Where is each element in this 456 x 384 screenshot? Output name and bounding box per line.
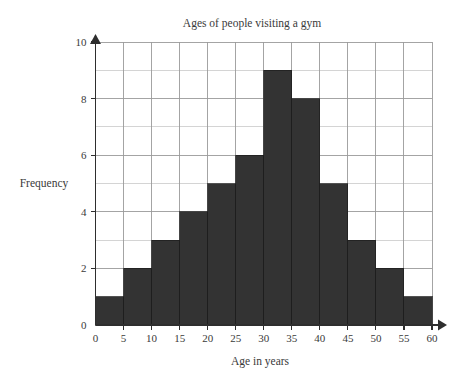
- x-tick-label-35: 35: [286, 332, 298, 344]
- x-axis-label: Age in years: [231, 355, 290, 368]
- x-tick-label-25: 25: [230, 332, 242, 344]
- y-tick-label-8: 8: [81, 93, 87, 105]
- bar-0-5: [96, 297, 124, 325]
- x-tick-label-30: 30: [258, 332, 270, 344]
- x-tick-label-40: 40: [314, 332, 326, 344]
- bar-20-25: [208, 184, 236, 326]
- x-tick-label-5: 5: [121, 332, 127, 344]
- histogram-chart: Ages of people visiting a gym 0510152025…: [0, 0, 456, 384]
- x-tick-label-55: 55: [398, 332, 410, 344]
- y-tick-label-10: 10: [76, 36, 88, 48]
- y-tick-label-2: 2: [81, 262, 87, 274]
- bar-55-60: [404, 297, 432, 325]
- bar-10-15: [152, 240, 180, 325]
- bar-30-35: [264, 70, 292, 325]
- y-tick-label-4: 4: [81, 206, 87, 218]
- bar-5-10: [124, 268, 152, 325]
- x-tick-label-20: 20: [202, 332, 214, 344]
- bar-40-45: [320, 184, 348, 326]
- x-tick-label-10: 10: [146, 332, 158, 344]
- y-axis-label: Frequency: [20, 177, 69, 190]
- bar-45-50: [348, 240, 376, 325]
- chart-canvas: Ages of people visiting a gym 0510152025…: [0, 0, 456, 384]
- x-tick-label-15: 15: [174, 332, 186, 344]
- x-tick-label-60: 60: [427, 332, 439, 344]
- x-tick-label-50: 50: [370, 332, 382, 344]
- chart-title: Ages of people visiting a gym: [183, 17, 321, 30]
- y-tick-label-0: 0: [81, 319, 87, 331]
- x-tick-label-45: 45: [342, 332, 354, 344]
- bar-35-40: [292, 99, 320, 325]
- bar-25-30: [236, 155, 264, 325]
- y-tick-label-6: 6: [81, 149, 87, 161]
- bar-15-20: [180, 212, 208, 325]
- bar-50-55: [376, 268, 404, 325]
- x-tick-label-0: 0: [93, 332, 99, 344]
